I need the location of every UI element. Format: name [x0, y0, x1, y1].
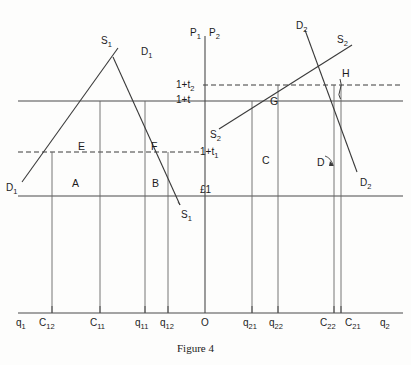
- region-label-E: E: [78, 141, 85, 152]
- tick-label-C11: C11: [90, 318, 105, 331]
- tick-label-q21: q21: [243, 318, 257, 331]
- tick-label-O: O: [201, 318, 209, 328]
- curve-label-D2-top: D2: [296, 21, 307, 34]
- tick-label-q1: q1: [16, 318, 26, 331]
- tick-label-q11: q11: [135, 318, 148, 331]
- tick-label-C12: C12: [39, 318, 55, 331]
- region-label-C: C: [262, 155, 270, 166]
- curve-label-D2-right: D2: [360, 178, 371, 191]
- price-label-one-plus-t2: 1+t2: [176, 80, 194, 93]
- figure-caption: Figure 4: [177, 342, 214, 354]
- curve-S1-left-market: [22, 48, 118, 182]
- tick-label-q2: q2: [380, 318, 390, 331]
- tick-label-C22: C22: [320, 318, 336, 331]
- curve-label-S1-top: S1: [101, 36, 112, 49]
- region-label-D: D: [317, 157, 325, 168]
- price-label-one-plus-t1: 1+t1: [200, 147, 218, 160]
- region-label-F: F: [151, 141, 157, 152]
- tick-label-C21: C21: [345, 318, 361, 331]
- curve-label-D1-top: D1: [141, 47, 152, 60]
- curve-label-S2-mid: S2: [210, 130, 221, 143]
- figure-drawing: [0, 0, 411, 365]
- axis-label-P2: P2: [209, 28, 220, 41]
- region-label-A: A: [72, 178, 79, 189]
- price-label-one-plus-t: 1+t: [176, 95, 190, 108]
- price-label-pound-one: £1: [200, 185, 211, 195]
- region-label-H: H: [342, 68, 350, 79]
- axis-label-P1: P1: [190, 28, 201, 41]
- region-label-B: B: [152, 178, 159, 189]
- tick-label-q22: q22: [269, 318, 283, 331]
- curve-label-D1-left: D1: [6, 183, 17, 196]
- region-label-G: G: [270, 96, 278, 107]
- tick-label-q12: q12: [160, 318, 174, 331]
- curve-S2-right-market: [219, 45, 352, 129]
- curve-label-S1-bottom: S1: [181, 210, 192, 223]
- figure-canvas: P1 P2 1+t2 1+t 1+t1 £1 S1 D1 D1 S1 D2 S2…: [0, 0, 411, 365]
- curve-D1-left-market: [113, 57, 180, 205]
- curve-label-S2-top: S2: [337, 35, 348, 48]
